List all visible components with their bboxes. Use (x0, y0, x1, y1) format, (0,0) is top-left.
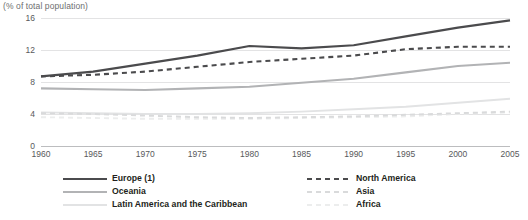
y-tick-label-12: 12 (15, 46, 35, 55)
series-line-latin-america-and-the-caribbean (41, 99, 510, 114)
legend-swatch-africa (307, 199, 351, 210)
series-line-north-america (41, 47, 510, 77)
chart-axis-title: (% of total population) (3, 1, 88, 11)
x-tick-label-1980: 1980 (229, 150, 269, 159)
legend-column-left: Europe (1)OceaniaLatin America and the C… (63, 172, 247, 211)
x-tick-label-1990: 1990 (334, 150, 374, 159)
legend-item-asia[interactable]: Asia (307, 185, 416, 198)
legend-item-africa[interactable]: Africa (307, 198, 416, 211)
chart-container: (% of total population) 1612840 19601965… (0, 0, 528, 220)
legend-swatch-north-america (307, 173, 351, 184)
plot-area (41, 18, 510, 146)
legend-swatch-europe-1 (63, 173, 107, 184)
legend-item-europe-1[interactable]: Europe (1) (63, 172, 247, 185)
x-tick-label-2000: 2000 (438, 150, 478, 159)
legend-swatch-latin-america-and-the-caribbean (63, 199, 107, 210)
legend-swatch-oceania (63, 186, 107, 197)
legend-swatch-asia (307, 186, 351, 197)
series-layer (41, 18, 510, 146)
axis-baseline (41, 146, 510, 147)
legend-item-oceania[interactable]: Oceania (63, 185, 247, 198)
legend-column-right: North AmericaAsiaAfrica (307, 172, 416, 211)
chart-legend: Europe (1)OceaniaLatin America and the C… (0, 172, 528, 218)
legend-item-latin-america-and-the-caribbean[interactable]: Latin America and the Caribbean (63, 198, 247, 211)
legend-label-north-america: North America (356, 174, 416, 183)
y-tick-label-16: 16 (15, 14, 35, 23)
x-tick-label-1975: 1975 (177, 150, 217, 159)
legend-item-north-america[interactable]: North America (307, 172, 416, 185)
legend-label-asia: Asia (356, 187, 374, 196)
y-tick-label-4: 4 (15, 110, 35, 119)
x-tick-label-1965: 1965 (73, 150, 113, 159)
x-tick-label-1960: 1960 (21, 150, 61, 159)
legend-label-africa: Africa (356, 200, 381, 209)
legend-label-oceania: Oceania (112, 187, 146, 196)
x-tick-label-1985: 1985 (282, 150, 322, 159)
x-tick-label-1970: 1970 (125, 150, 165, 159)
x-tick-label-1995: 1995 (386, 150, 426, 159)
legend-label-europe-1: Europe (1) (112, 174, 155, 183)
y-tick-label-8: 8 (15, 78, 35, 87)
series-line-oceania (41, 63, 510, 90)
x-tick-label-2005: 2005 (490, 150, 528, 159)
legend-label-latin-america-and-the-caribbean: Latin America and the Caribbean (112, 200, 247, 209)
